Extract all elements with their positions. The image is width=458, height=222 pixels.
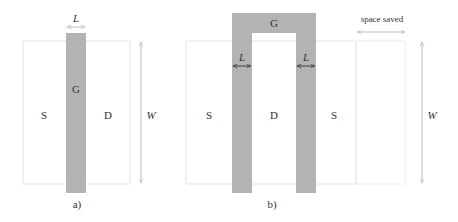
panel-a-caption: a)	[73, 198, 82, 211]
source-right-label: S	[331, 109, 337, 121]
transistor-layout-diagram: G S D L W a) G S D S L L space saved W b…	[0, 0, 458, 222]
panel-b-caption: b)	[267, 198, 277, 211]
space-saved-label: space saved	[361, 14, 404, 24]
gate-bar	[66, 33, 86, 193]
panel-b: G S D S L L space saved W b)	[186, 13, 437, 211]
width-label: W	[427, 109, 437, 121]
gate-finger-right	[296, 13, 316, 193]
panel-a: G S D L W a)	[23, 12, 156, 211]
source-label: S	[41, 109, 47, 121]
length-left-label: L	[238, 51, 245, 63]
gate-label: G	[270, 17, 278, 29]
space-saved-outline	[356, 41, 405, 184]
length-right-label: L	[302, 51, 309, 63]
length-label: L	[72, 12, 79, 24]
gate-finger-left	[232, 13, 252, 193]
gate-label: G	[72, 83, 80, 95]
drain-label: D	[104, 109, 112, 121]
width-label: W	[146, 109, 156, 121]
drain-label: D	[270, 109, 278, 121]
source-left-label: S	[206, 109, 212, 121]
